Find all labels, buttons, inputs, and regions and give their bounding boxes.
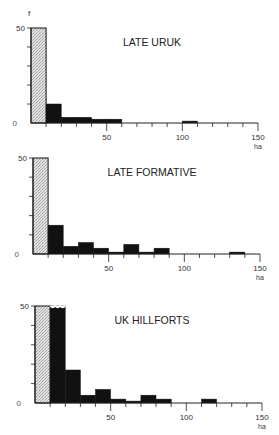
- chart-title: LATE URUK: [123, 36, 181, 48]
- histogram-bar: [46, 104, 61, 123]
- histogram-bar: [154, 248, 169, 254]
- x-tick-label: 150: [253, 264, 267, 273]
- histogram-bar: [92, 119, 107, 123]
- x-unit-label: ha: [256, 274, 264, 281]
- histogram-bar: [48, 225, 63, 254]
- chart-late-uruk: 50100150050haLATE URUK: [13, 24, 266, 150]
- y-axis-symbol: f: [28, 9, 31, 18]
- histogram-bar: [50, 306, 65, 403]
- chart-title: UK HILLFORTS: [114, 314, 189, 326]
- chart-title: LATE FORMATIVE: [108, 166, 197, 178]
- histogram-figure: f 50100150050haLATE URUK 50100150050haLA…: [0, 0, 279, 435]
- chart-late-formative: 50100150050haLATE FORMATIVE: [15, 154, 268, 281]
- x-tick-label: 100: [178, 264, 192, 273]
- histogram-bar: [202, 399, 217, 403]
- x-tick-label: 100: [180, 413, 194, 422]
- histogram-bar: [65, 370, 80, 403]
- x-tick-label: 50: [106, 413, 115, 422]
- y-tick-label: 0: [15, 250, 20, 259]
- histogram-bar: [156, 399, 171, 403]
- histogram-bar: [80, 395, 95, 403]
- chart-uk-hillforts: 50100150050haUK HILLFORTS: [17, 302, 270, 430]
- x-unit-label: ha: [254, 143, 262, 150]
- histogram-bar: [63, 246, 78, 254]
- x-tick-label: 50: [104, 264, 113, 273]
- x-tick-label: 50: [102, 133, 111, 142]
- x-tick-label: 150: [251, 133, 265, 142]
- histogram-bar: [107, 119, 122, 123]
- histogram-bar: [78, 243, 93, 255]
- histogram-bar: [141, 395, 156, 403]
- x-tick-label: 150: [255, 413, 269, 422]
- y-tick-label: 50: [20, 302, 29, 311]
- histogram-bar: [33, 158, 48, 254]
- x-tick-label: 100: [176, 133, 190, 142]
- x-unit-label: ha: [258, 423, 266, 430]
- svg-text:f: f: [28, 9, 31, 18]
- y-tick-label: 50: [16, 24, 25, 33]
- histogram-bar: [124, 244, 139, 254]
- y-tick-label: 0: [13, 119, 18, 128]
- histogram-bar: [31, 28, 46, 123]
- y-tick-label: 0: [17, 399, 22, 408]
- histogram-bar: [94, 248, 109, 254]
- histogram-bar: [76, 117, 91, 123]
- off-scale-break-mark: [50, 306, 65, 308]
- y-tick-label: 50: [18, 154, 27, 163]
- histogram-bar: [111, 399, 126, 403]
- histogram-bar: [96, 389, 111, 403]
- histogram-bar: [35, 306, 50, 403]
- histogram-bar: [61, 117, 76, 123]
